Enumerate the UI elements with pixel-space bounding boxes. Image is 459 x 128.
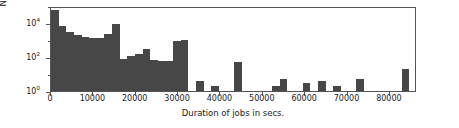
histogram-bar xyxy=(143,49,151,91)
histogram-bar xyxy=(356,79,364,91)
histogram-bar xyxy=(234,62,242,91)
histogram-bar xyxy=(165,61,173,91)
histogram-bar xyxy=(402,69,410,91)
histogram-bar xyxy=(211,86,219,91)
x-axis-label: Duration of jobs in secs. xyxy=(50,108,416,118)
x-tick-mark xyxy=(219,92,220,96)
x-tick-mark xyxy=(50,92,51,96)
histogram-bar xyxy=(51,10,59,91)
x-tick-mark xyxy=(347,92,348,96)
y-minor-tick-mark xyxy=(48,75,51,76)
x-tick-mark xyxy=(135,92,136,96)
histogram-bar xyxy=(89,38,97,91)
histogram-bar xyxy=(104,34,112,91)
histogram-bar xyxy=(120,59,128,91)
histogram-bar xyxy=(112,24,120,91)
histogram-bar xyxy=(59,26,67,91)
x-tick-mark xyxy=(262,92,263,96)
histogram-bar xyxy=(318,81,326,91)
y-tick-label: 104 xyxy=(0,19,40,28)
histogram-bar xyxy=(66,32,74,91)
histogram-bar xyxy=(173,41,181,91)
y-minor-tick-mark xyxy=(48,41,51,42)
x-tick-mark xyxy=(304,92,305,96)
histogram-bars xyxy=(51,8,415,91)
histogram-bar xyxy=(150,60,158,91)
x-tick-mark xyxy=(177,92,178,96)
histogram-bar xyxy=(158,61,166,91)
y-tick-mark xyxy=(46,24,50,25)
histogram-bar xyxy=(303,83,311,91)
histogram-bar xyxy=(82,37,90,91)
x-tick-mark xyxy=(92,92,93,96)
y-tick-mark xyxy=(46,58,50,59)
histogram-bar xyxy=(196,81,204,91)
histogram-bar xyxy=(333,86,341,91)
histogram-bar xyxy=(280,79,288,91)
histogram-figure: Number of jobs 100102104 010000200003000… xyxy=(0,0,459,128)
histogram-bar xyxy=(97,38,105,91)
y-tick-label: 102 xyxy=(0,53,40,62)
histogram-bar xyxy=(74,35,82,91)
x-tick-mark xyxy=(389,92,390,96)
histogram-bar xyxy=(181,40,189,91)
histogram-bar xyxy=(135,54,143,91)
y-axis-label: Number of jobs xyxy=(0,0,8,12)
histogram-bar xyxy=(272,86,280,91)
plot-area xyxy=(50,7,416,92)
y-minor-tick-mark xyxy=(48,7,51,8)
histogram-bar xyxy=(127,56,135,91)
